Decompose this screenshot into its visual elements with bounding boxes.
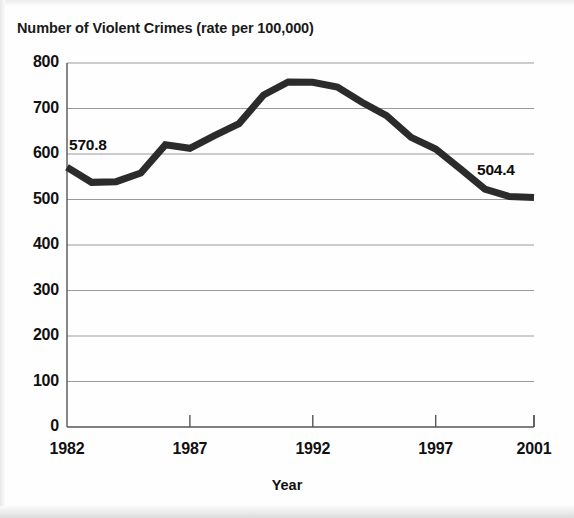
chart-figure: Number of Violent Crimes (rate per 100,0… [0, 0, 574, 518]
y-tick-label: 400 [7, 235, 59, 253]
gridlines-group [67, 63, 534, 382]
point-annotation: 570.8 [69, 136, 107, 154]
y-tick-label: 600 [7, 144, 59, 162]
x-tick-label: 1982 [32, 440, 102, 458]
x-tick-label: 1997 [401, 440, 471, 458]
x-tick-marks-group [190, 415, 534, 427]
y-tick-label: 300 [7, 281, 59, 299]
y-tick-label: 0 [7, 417, 59, 435]
y-tick-label: 500 [7, 190, 59, 208]
x-axis-title: Year [0, 477, 574, 493]
data-series-line [67, 82, 534, 197]
x-tick-label: 1992 [278, 440, 348, 458]
y-tick-label: 700 [7, 99, 59, 117]
x-tick-label: 2001 [499, 440, 569, 458]
y-tick-label: 800 [7, 53, 59, 71]
y-tick-label: 200 [7, 326, 59, 344]
point-annotation: 504.4 [477, 161, 515, 179]
y-tick-label: 100 [7, 372, 59, 390]
x-tick-label: 1987 [155, 440, 225, 458]
